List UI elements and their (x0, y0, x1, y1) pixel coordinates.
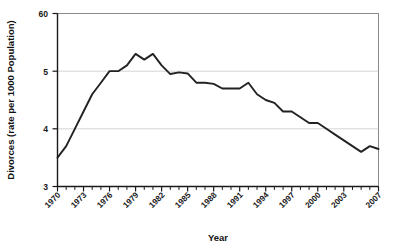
y-tick-label-5: 5 (43, 67, 48, 77)
data-series-divorce-rate (58, 54, 379, 158)
x-tick-label-1985: 1985 (173, 190, 193, 210)
x-tick-label-2000: 2000 (303, 190, 323, 210)
x-tick-labels: 1970197319761979198219851988199119941997… (43, 190, 384, 210)
y-tick-label-3: 3 (43, 182, 48, 192)
x-tick-label-1994: 1994 (251, 190, 271, 210)
y-tick-label-4: 4 (43, 124, 48, 134)
x-tick-label-1973: 1973 (69, 190, 89, 210)
chart-figure: 60 5 4 3 1970197319761979198219851988199… (0, 0, 396, 249)
x-tick-label-2003: 2003 (329, 190, 349, 210)
x-tick-label-1970: 1970 (43, 190, 63, 210)
divorce-rate-line-chart: 60 5 4 3 1970197319761979198219851988199… (0, 0, 396, 249)
x-tick-label-1991: 1991 (225, 190, 245, 210)
x-tick-label-1997: 1997 (277, 190, 297, 210)
x-axis-title: Year (208, 232, 228, 243)
x-tick-label-1976: 1976 (95, 190, 115, 210)
y-axis-title: Divorces (rate per 1000 Population) (5, 20, 16, 179)
x-tick-label-1988: 1988 (199, 190, 219, 210)
x-tickmarks (58, 187, 379, 192)
gridlines (58, 71, 379, 129)
x-tick-label-1979: 1979 (121, 190, 141, 210)
plot-frame (58, 14, 379, 187)
x-tick-label-1982: 1982 (147, 190, 167, 210)
x-tick-label-2007: 2007 (364, 190, 384, 210)
y-tick-label-6: 60 (38, 9, 48, 19)
y-tickmarks (53, 14, 58, 187)
